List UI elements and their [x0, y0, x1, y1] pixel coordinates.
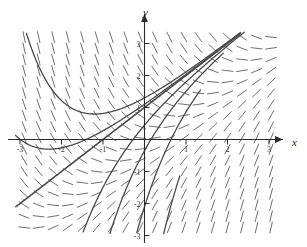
- x-tick-label: 3: [267, 145, 271, 154]
- slope-segment: [107, 191, 116, 197]
- slope-segment: [48, 215, 59, 217]
- slope-segment: [253, 89, 261, 97]
- slope-segment: [211, 222, 214, 233]
- slope-segment: [95, 54, 99, 64]
- slope-segment: [208, 112, 217, 118]
- slope-segment: [166, 55, 172, 64]
- slope-segment: [80, 66, 84, 76]
- slope-segment: [65, 133, 71, 142]
- slope-segment: [51, 99, 55, 109]
- slope-segment: [165, 156, 173, 164]
- slope-segment: [122, 201, 129, 210]
- slope-segment: [164, 102, 174, 106]
- x-tick-label: 2: [226, 145, 230, 154]
- slope-segment: [255, 177, 258, 187]
- y-tick-label: -1: [134, 168, 141, 177]
- slope-segment: [269, 133, 273, 143]
- slope-segment: [209, 123, 217, 131]
- slope-segment: [226, 200, 229, 210]
- slope-segment: [222, 81, 233, 83]
- slope-segment: [195, 145, 202, 154]
- slope-segment: [251, 48, 262, 49]
- slope-segment: [80, 88, 84, 98]
- slope-segment: [224, 112, 232, 120]
- slope-segment: [237, 80, 247, 84]
- slope-segment: [19, 214, 29, 218]
- slope-segment: [194, 134, 202, 142]
- slope-segment: [120, 159, 131, 161]
- slope-segment: [167, 44, 173, 54]
- slope-segment: [225, 155, 230, 165]
- slope-segment: [106, 147, 116, 151]
- slope-segment: [269, 122, 274, 132]
- slope-segment: [51, 122, 56, 132]
- slope-segment: [179, 135, 188, 141]
- slope-segment: [123, 89, 129, 98]
- y-tick-label: 1: [137, 104, 141, 113]
- slope-segment: [123, 223, 128, 233]
- slope-segment: [182, 200, 186, 210]
- slope-segment: [20, 190, 28, 197]
- slope-segment: [33, 216, 44, 217]
- slope-segment: [211, 167, 216, 177]
- x-tick-label: 1: [184, 145, 188, 154]
- slope-segment: [95, 66, 99, 76]
- slope-segment: [225, 166, 229, 176]
- slope-segment: [193, 113, 203, 117]
- slope-segment: [93, 223, 100, 232]
- slope-segment: [109, 43, 113, 53]
- slope-segment: [66, 65, 69, 75]
- slope-segment: [222, 70, 233, 71]
- slope-segment: [37, 77, 40, 88]
- slope-segment: [23, 88, 26, 99]
- slope-segment: [152, 43, 157, 53]
- slope-segment: [152, 55, 157, 65]
- slope-segment: [77, 182, 88, 183]
- slope-segment: [195, 44, 202, 52]
- slope-segment: [77, 170, 87, 174]
- slope-segment: [208, 92, 219, 94]
- slope-segment: [37, 32, 39, 43]
- slope-segment: [63, 181, 73, 185]
- slope-segment: [226, 178, 230, 188]
- slope-segment: [270, 189, 273, 200]
- slope-segment: [166, 66, 173, 74]
- slope-segment: [266, 47, 277, 49]
- slope-segment: [179, 125, 189, 129]
- slope-segment: [255, 189, 258, 200]
- slope-segment: [124, 43, 128, 53]
- y-tick-label: -2: [134, 200, 141, 209]
- slope-segment: [36, 133, 41, 143]
- slope-segment: [35, 167, 42, 175]
- slope-segment: [193, 103, 204, 105]
- slope-segment: [240, 166, 244, 176]
- slope-segment: [91, 171, 102, 172]
- slope-segment: [23, 43, 25, 54]
- direction-field-figure: -3-2-1123321-1-2-3 x y: [0, 0, 307, 247]
- slope-segment: [222, 91, 232, 95]
- slope-segment: [152, 200, 157, 210]
- slope-segment: [124, 54, 128, 64]
- slope-segment: [270, 200, 273, 211]
- slope-segment: [210, 134, 217, 143]
- slope-segment: [226, 222, 229, 233]
- slope-segment: [94, 100, 99, 110]
- slope-segment: [78, 213, 87, 219]
- slope-segment: [77, 203, 87, 207]
- direction-field-plot: -3-2-1123321-1-2-3 x y: [0, 0, 307, 247]
- slope-segment: [23, 32, 25, 43]
- slope-segment: [108, 212, 115, 221]
- slope-segment: [167, 222, 171, 232]
- slope-segment: [108, 100, 114, 109]
- slope-segment: [270, 211, 273, 222]
- slope-segment: [270, 222, 272, 233]
- slope-segment: [37, 43, 40, 54]
- slope-segment: [164, 115, 175, 116]
- slope-segment: [109, 66, 113, 76]
- slope-segment: [196, 167, 201, 177]
- slope-segment: [66, 54, 69, 65]
- x-tick-label: -2: [58, 145, 65, 154]
- slope-segment: [153, 32, 157, 42]
- slope-segment: [266, 36, 277, 37]
- slope-segment: [240, 144, 245, 154]
